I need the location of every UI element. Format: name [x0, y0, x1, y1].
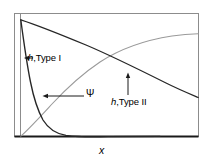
- psi-curve: [21, 34, 198, 136]
- h-type-i-curve: [21, 20, 160, 137]
- x-axis-label: x: [99, 145, 104, 156]
- h-type-i-label: h,Type I: [28, 53, 61, 63]
- h-type-ii-label: h,Type II: [111, 97, 147, 107]
- h-type-ii-leader: [126, 73, 130, 96]
- psi-label: Ψ: [86, 89, 94, 99]
- h-type-ii-text: ,Type II: [116, 96, 146, 107]
- figure-container: h,Type I h,Type II Ψ x: [0, 0, 207, 164]
- h-type-i-text: ,Type I: [33, 52, 61, 63]
- plot-canvas: [0, 0, 207, 164]
- psi-arrow: [43, 94, 85, 99]
